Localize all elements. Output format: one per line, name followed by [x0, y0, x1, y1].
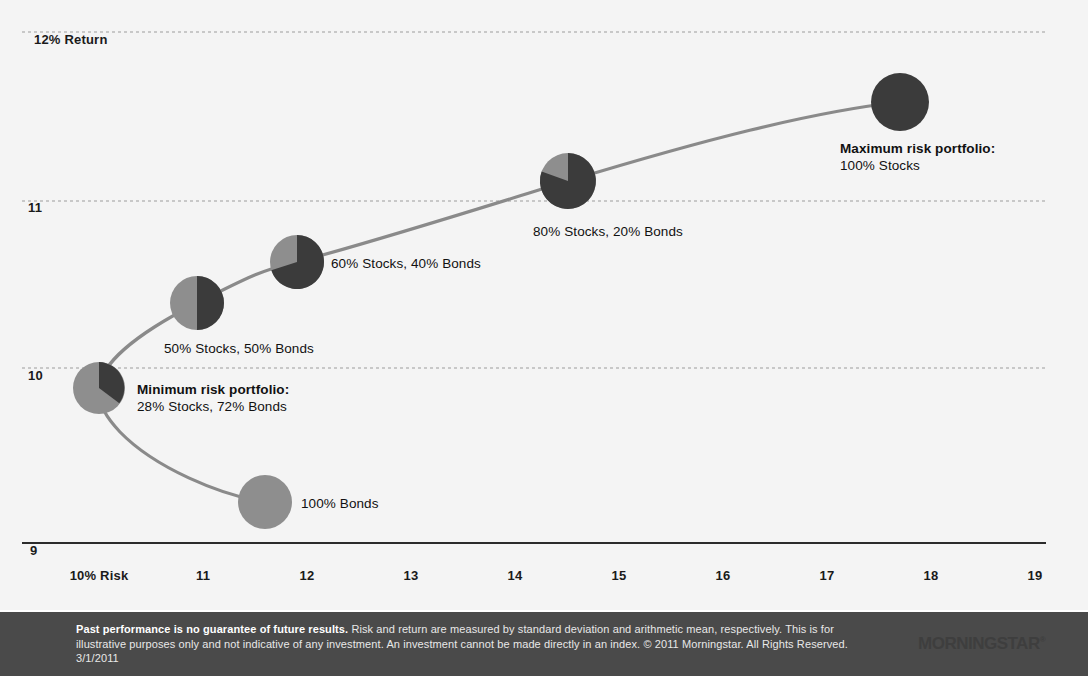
- pie-stocks-slice: [871, 73, 929, 131]
- morningstar-logo: MORNINGSTAR®: [918, 634, 1045, 654]
- x-tick-label-17: 17: [787, 568, 867, 583]
- annotation-sub: 50% Stocks, 50% Bonds: [164, 340, 314, 357]
- x-tick-label-16: 16: [683, 568, 763, 583]
- x-tick-label-13: 13: [371, 568, 451, 583]
- x-tick-label-15: 15: [579, 568, 659, 583]
- annotation-sub: 28% Stocks, 72% Bonds: [137, 398, 289, 415]
- annotation-sub: 100% Stocks: [840, 157, 995, 174]
- marker-80-20[interactable]: [540, 153, 596, 209]
- annotation-100-bonds: 100% Bonds: [301, 495, 379, 512]
- marker-min-risk[interactable]: [73, 362, 125, 414]
- marker-60-40[interactable]: [270, 235, 324, 289]
- marker-100-bonds[interactable]: [238, 475, 292, 529]
- x-tick-label-19: 19: [995, 568, 1075, 583]
- x-tick-label-10: 10% Risk: [39, 568, 159, 583]
- annotation-max-risk: Maximum risk portfolio: 100% Stocks: [840, 140, 995, 174]
- y-tick-label-10: 10: [28, 368, 43, 383]
- annotation-sub: 60% Stocks, 40% Bonds: [331, 255, 481, 272]
- efficient-frontier-svg: [0, 0, 1088, 610]
- registered-trademark-icon: ®: [1040, 635, 1045, 644]
- marker-max-risk[interactable]: [871, 73, 929, 131]
- y-tick-label-11: 11: [28, 200, 42, 215]
- pie-stocks-slice: [197, 276, 224, 330]
- x-tick-label-11: 11: [163, 568, 243, 583]
- footer-band: Past performance is no guarantee of futu…: [0, 612, 1088, 676]
- disclaimer-lead: Past performance is no guarantee of futu…: [76, 623, 348, 635]
- y-tick-label-12: 12% Return: [34, 32, 108, 47]
- annotation-50-50: 50% Stocks, 50% Bonds: [164, 340, 314, 357]
- y-tick-label-9: 9: [30, 543, 37, 558]
- x-tick-label-18: 18: [891, 568, 971, 583]
- annotation-sub: 80% Stocks, 20% Bonds: [533, 223, 683, 240]
- plot-area: 12% Return 11 10 9 10% Risk 11 12 13 14 …: [0, 0, 1088, 610]
- disclaimer-text: Past performance is no guarantee of futu…: [76, 622, 886, 666]
- annotation-60-40: 60% Stocks, 40% Bonds: [331, 255, 481, 272]
- x-tick-label-14: 14: [475, 568, 555, 583]
- morningstar-wordmark: MORNINGSTAR: [918, 634, 1040, 653]
- annotation-sub: 100% Bonds: [301, 495, 379, 512]
- annotation-80-20: 80% Stocks, 20% Bonds: [533, 223, 683, 240]
- annotation-min-risk: Minimum risk portfolio: 28% Stocks, 72% …: [137, 381, 289, 415]
- annotation-heading: Minimum risk portfolio:: [137, 381, 289, 398]
- annotation-heading: Maximum risk portfolio:: [840, 140, 995, 157]
- x-tick-label-12: 12: [267, 568, 347, 583]
- chart-page: 12% Return 11 10 9 10% Risk 11 12 13 14 …: [0, 0, 1088, 690]
- pie-bonds-slice: [238, 475, 292, 529]
- marker-50-50[interactable]: [170, 276, 224, 330]
